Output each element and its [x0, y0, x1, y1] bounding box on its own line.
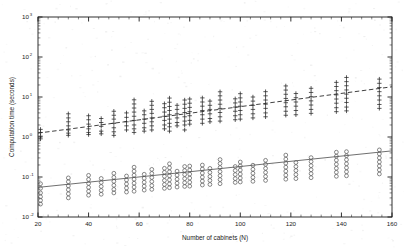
svg-text:10: 10: [22, 213, 29, 220]
figure-container: 20406080100120140160 10310210110010-110-…: [0, 0, 404, 250]
svg-text:10: 10: [22, 173, 29, 180]
x-tick-label: 80: [186, 220, 193, 227]
x-tick-label: 60: [136, 220, 143, 227]
svg-text:-2: -2: [30, 212, 34, 217]
svg-text:10: 10: [22, 13, 29, 20]
svg-text:10: 10: [22, 133, 29, 140]
y-axis-label: Computation time (seconds): [8, 77, 16, 157]
svg-text:10: 10: [22, 93, 29, 100]
x-tick-label: 100: [235, 220, 246, 227]
svg-text:-1: -1: [30, 172, 34, 177]
x-axis-label: Number of cabinets (N): [182, 234, 248, 242]
x-tick-label: 160: [387, 220, 398, 227]
x-tick-label: 40: [85, 220, 92, 227]
x-tick-label: 120: [286, 220, 297, 227]
computation-time-scatter-plot: 20406080100120140160 10310210110010-110-…: [0, 0, 404, 250]
x-tick-label: 20: [35, 220, 42, 227]
x-tick-label: 140: [336, 220, 347, 227]
svg-text:10: 10: [22, 53, 29, 60]
